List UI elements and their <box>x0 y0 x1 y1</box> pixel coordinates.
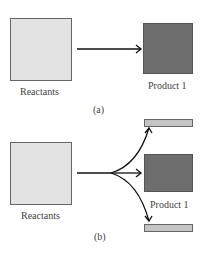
arrow-right-icon <box>77 45 141 53</box>
branching-arrow-icon <box>77 128 152 221</box>
arrows-layer <box>0 0 202 261</box>
